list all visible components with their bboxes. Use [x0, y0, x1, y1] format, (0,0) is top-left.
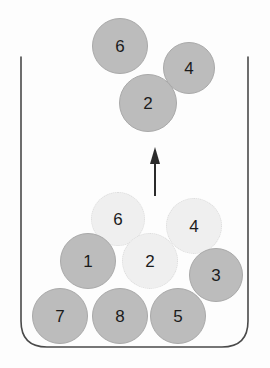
ball-label: 4: [189, 218, 198, 235]
ball-label: 2: [143, 95, 152, 112]
ball-label: 6: [115, 38, 124, 55]
ball-label: 2: [145, 253, 154, 270]
ball-label: 3: [211, 267, 220, 284]
ball-5-settled[interactable]: 5: [150, 288, 206, 344]
ball-2-lifted[interactable]: 2: [119, 74, 177, 132]
ball-1-settled[interactable]: 1: [60, 233, 116, 289]
ball-8-settled[interactable]: 8: [92, 288, 148, 344]
ball-label: 8: [115, 308, 124, 325]
ball-label: 4: [184, 60, 193, 77]
ball-label: 7: [55, 308, 64, 325]
ball-label: 6: [113, 211, 122, 228]
ball-label: 1: [83, 253, 92, 270]
ball-6-lifted[interactable]: 6: [92, 18, 148, 74]
diagram-canvas: 64264123785: [0, 0, 270, 368]
ball-7-settled[interactable]: 7: [32, 288, 88, 344]
ball-label: 5: [173, 308, 182, 325]
ball-2-ghost[interactable]: 2: [122, 233, 178, 289]
ball-3-settled[interactable]: 3: [189, 248, 243, 302]
ball-4-ghost[interactable]: 4: [166, 198, 222, 254]
